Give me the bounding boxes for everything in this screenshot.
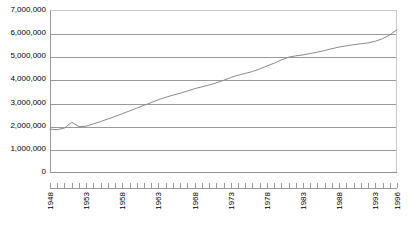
x-axis-tick xyxy=(339,183,340,188)
x-axis-tick xyxy=(281,183,282,188)
x-axis-tick xyxy=(317,183,318,188)
x-axis-tick xyxy=(166,183,167,188)
x-axis-tick xyxy=(130,183,131,188)
x-axis-tick xyxy=(289,183,290,188)
y-axis-label: 3,000,000 xyxy=(10,99,46,107)
x-axis-tick xyxy=(115,183,116,188)
x-axis-tick xyxy=(151,183,152,188)
x-axis-tick xyxy=(267,183,268,188)
x-axis-tick xyxy=(375,183,376,188)
x-axis-tick xyxy=(310,183,311,188)
x-axis-tick xyxy=(361,183,362,188)
x-axis-label: 1996 xyxy=(394,192,402,210)
x-axis-tick xyxy=(72,183,73,188)
x-axis-tick xyxy=(224,183,225,188)
y-axis-label: 5,000,000 xyxy=(10,52,46,60)
x-axis-label: 1948 xyxy=(47,192,55,210)
x-axis-label: 1988 xyxy=(336,192,344,210)
x-axis-tick xyxy=(354,183,355,188)
x-axis-tick xyxy=(231,183,232,188)
x-axis-label: 1958 xyxy=(119,192,127,210)
x-axis-tick xyxy=(187,183,188,188)
x-axis-tick xyxy=(101,183,102,188)
x-axis-tick xyxy=(108,183,109,188)
x-axis-tick xyxy=(390,183,391,188)
x-axis-label: 1993 xyxy=(372,192,380,210)
x-axis-label: 1953 xyxy=(83,192,91,210)
x-axis-tick xyxy=(209,183,210,188)
x-axis-tick xyxy=(368,183,369,188)
y-axis-label: 4,000,000 xyxy=(10,75,46,83)
category-axis-line xyxy=(50,188,397,189)
y-axis-label: 2,000,000 xyxy=(10,122,46,130)
x-axis-tick xyxy=(245,183,246,188)
x-axis-tick xyxy=(252,183,253,188)
series-layer xyxy=(50,10,397,172)
y-axis: 7,000,0006,000,0005,000,0004,000,0003,00… xyxy=(0,0,46,232)
x-axis-tick xyxy=(158,183,159,188)
x-axis-tick xyxy=(180,183,181,188)
x-axis-tick xyxy=(86,183,87,188)
x-axis-tick xyxy=(202,183,203,188)
y-axis-label: 0 xyxy=(42,168,46,176)
value-axis-baseline xyxy=(50,172,397,173)
x-axis-tick xyxy=(144,183,145,188)
x-axis-tick xyxy=(216,183,217,188)
x-axis-tick xyxy=(260,183,261,188)
x-axis-tick xyxy=(383,183,384,188)
x-axis-tick xyxy=(238,183,239,188)
x-axis-tick xyxy=(173,183,174,188)
x-axis-label: 1978 xyxy=(264,192,272,210)
x-axis-label: 1963 xyxy=(155,192,163,210)
y-axis-label: 7,000,000 xyxy=(10,6,46,14)
x-axis-tick xyxy=(57,183,58,188)
x-axis-label: 1973 xyxy=(228,192,236,210)
x-axis-tick xyxy=(122,183,123,188)
x-axis-label: 1983 xyxy=(300,192,308,210)
line-chart: 7,000,0006,000,0005,000,0004,000,0003,00… xyxy=(0,0,409,232)
x-axis-tick xyxy=(325,183,326,188)
x-axis-tick xyxy=(303,183,304,188)
x-axis-tick xyxy=(397,183,398,188)
x-axis-label: 1968 xyxy=(192,192,200,210)
x-axis-tick xyxy=(274,183,275,188)
x-axis-tick xyxy=(64,183,65,188)
y-axis-label: 6,000,000 xyxy=(10,29,46,37)
x-axis-tick xyxy=(137,183,138,188)
series-line-1 xyxy=(50,30,397,130)
x-axis-tick xyxy=(79,183,80,188)
x-axis-tick xyxy=(50,183,51,188)
x-axis-tick xyxy=(93,183,94,188)
x-axis-tick xyxy=(296,183,297,188)
y-axis-label: 1,000,000 xyxy=(10,145,46,153)
x-axis-tick xyxy=(195,183,196,188)
x-axis-tick xyxy=(332,183,333,188)
x-axis-tick xyxy=(346,183,347,188)
